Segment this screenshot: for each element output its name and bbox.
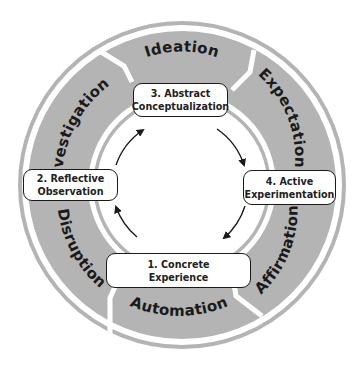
arrow-reflective-to-abstract <box>116 130 143 165</box>
stage-concrete-line2: Experience <box>149 271 209 284</box>
arrow-concrete-to-reflective <box>116 207 137 237</box>
stage-reflective-observation: 2. Reflective Observation <box>23 169 118 201</box>
stage-abstract-line1: 3. Abstract <box>151 87 211 100</box>
stage-concrete-experience: 1. Concrete Experience <box>106 253 251 288</box>
stage-concrete-line1: 1. Concrete <box>147 258 209 271</box>
stage-reflective-line2: Observation <box>38 185 104 198</box>
stage-active-line1: 4. Active <box>266 175 313 188</box>
arrow-abstract-to-active <box>217 129 244 165</box>
stage-active-line2: Experimentation <box>245 188 335 201</box>
stage-abstract-line2: Conceptualization <box>132 100 229 113</box>
stage-reflective-line1: 2. Reflective <box>37 172 105 185</box>
arrow-active-to-concrete <box>224 206 245 238</box>
stage-active-experimentation: 4. Active Experimentation <box>243 170 336 205</box>
stage-abstract-conceptualization: 3. Abstract Conceptualization <box>133 83 228 117</box>
